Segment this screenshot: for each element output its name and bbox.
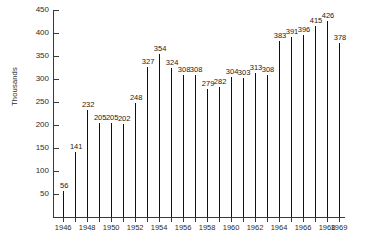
x-axis-tick-mark — [327, 218, 328, 222]
bar-value-label: 354 — [146, 44, 174, 53]
bar-chart: Thousands 50100150200250300350400450 194… — [0, 0, 366, 242]
x-axis-tick-mark — [183, 218, 184, 222]
bar — [219, 87, 221, 217]
bar — [159, 54, 161, 217]
y-axis-tick-mark — [54, 56, 59, 57]
y-axis-title: Thousands — [10, 47, 19, 127]
x-axis-tick-mark — [99, 218, 100, 222]
y-axis-tick-label: 100 — [20, 166, 49, 176]
bar-value-label: 426 — [314, 11, 342, 20]
y-axis-tick-label: 150 — [20, 143, 49, 153]
bar — [147, 67, 149, 217]
bar-value-label: 232 — [74, 100, 102, 109]
bar — [291, 37, 293, 217]
x-axis-tick-mark — [339, 218, 340, 222]
bar — [135, 103, 137, 217]
y-axis-tick-label: 300 — [20, 74, 49, 84]
y-axis-tick-label: 200 — [20, 120, 49, 130]
bar — [87, 110, 89, 217]
bar — [255, 73, 257, 217]
bar — [123, 124, 125, 217]
x-axis-tick-mark — [231, 218, 232, 222]
x-axis-tick-mark — [303, 218, 304, 222]
y-axis-tick-mark — [54, 171, 59, 172]
x-axis-tick-mark — [87, 218, 88, 222]
bar — [279, 41, 281, 217]
bar — [327, 21, 329, 217]
bar — [339, 43, 341, 217]
x-axis-tick-mark — [147, 218, 148, 222]
x-axis-tick-mark — [123, 218, 124, 222]
bar — [183, 75, 185, 217]
x-axis-tick-mark — [207, 218, 208, 222]
x-axis-tick-mark — [159, 218, 160, 222]
x-axis-tick-mark — [243, 218, 244, 222]
bar — [231, 77, 233, 217]
y-axis-tick-mark — [54, 79, 59, 80]
bar-value-label: 378 — [326, 33, 354, 42]
y-axis-tick-label: 350 — [20, 51, 49, 61]
x-axis-tick-mark — [291, 218, 292, 222]
y-axis-tick-mark — [54, 194, 59, 195]
bar — [195, 75, 197, 217]
bar — [303, 35, 305, 217]
bar — [207, 89, 209, 217]
x-axis-tick-mark — [63, 218, 64, 222]
y-axis-tick-mark — [54, 102, 59, 103]
x-axis-tick-mark — [111, 218, 112, 222]
x-axis-line — [53, 217, 345, 218]
bar — [243, 78, 245, 217]
y-axis-tick-label: 400 — [20, 28, 49, 38]
bar — [99, 123, 101, 217]
bar — [111, 123, 113, 217]
y-axis-tick-label: 450 — [20, 5, 49, 15]
bar — [75, 152, 77, 217]
bar — [171, 68, 173, 217]
x-axis-tick-mark — [171, 218, 172, 222]
x-axis-tick-label: 1969 — [322, 223, 356, 232]
bar — [63, 191, 65, 217]
x-axis-tick-mark — [267, 218, 268, 222]
x-axis-tick-mark — [279, 218, 280, 222]
x-axis-tick-mark — [135, 218, 136, 222]
bar — [267, 75, 269, 217]
bar — [315, 26, 317, 217]
x-axis-tick-mark — [315, 218, 316, 222]
x-axis-tick-mark — [219, 218, 220, 222]
y-axis-tick-mark — [54, 148, 59, 149]
x-axis-tick-mark — [255, 218, 256, 222]
y-axis-tick-mark — [54, 10, 59, 11]
x-axis-tick-mark — [195, 218, 196, 222]
y-axis-tick-label: 50 — [20, 189, 49, 199]
bar-value-label: 308 — [182, 65, 210, 74]
x-axis-tick-mark — [75, 218, 76, 222]
y-axis-tick-mark — [54, 125, 59, 126]
y-axis-tick-mark — [54, 33, 59, 34]
y-axis-tick-label: 250 — [20, 97, 49, 107]
